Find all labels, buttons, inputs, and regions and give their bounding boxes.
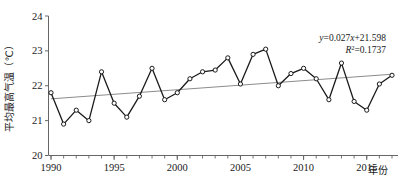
data-point-marker: [200, 70, 204, 74]
data-point-marker: [87, 119, 91, 123]
data-point-marker: [377, 82, 381, 86]
data-point-marker: [251, 52, 255, 56]
data-point-marker: [301, 66, 305, 70]
x-tick-label: 1990: [41, 162, 62, 173]
x-tick-label: 1995: [104, 162, 125, 173]
x-tick-label: 2005: [230, 162, 251, 173]
data-point-marker: [112, 101, 116, 105]
r-squared-text: R2=0.1737: [344, 44, 386, 55]
data-point-marker: [163, 98, 167, 102]
y-tick-label: 23: [32, 45, 43, 56]
data-point-marker: [352, 99, 356, 103]
data-point-marker: [276, 84, 280, 88]
data-point-marker: [390, 73, 394, 77]
data-point-marker: [339, 61, 343, 65]
y-axis-tick-labels: 2021222324: [32, 11, 43, 162]
data-point-marker: [365, 108, 369, 112]
line-chart: 2021222324 199019952000200520102015 平均最高…: [0, 0, 407, 187]
data-point-marker: [49, 91, 53, 95]
y-tick-label: 22: [32, 80, 43, 91]
eq-coefficient: =0.027: [324, 33, 351, 43]
data-point-marker: [314, 77, 318, 81]
data-point-marker: [150, 66, 154, 70]
eq-intercept: +21.598: [355, 33, 387, 43]
x-axis-tick-labels: 199019952000200520102015: [41, 162, 378, 173]
trendline: [51, 74, 392, 99]
data-point-marker: [74, 108, 78, 112]
data-point-marker: [137, 94, 141, 98]
r-value: =0.1737: [355, 45, 387, 55]
data-point-marker: [289, 71, 293, 75]
x-axis-major-ticks: [51, 156, 367, 161]
y-axis-title: 平均最高气温（℃）: [3, 40, 15, 131]
x-tick-label: 2010: [293, 162, 314, 173]
data-point-marker: [213, 68, 217, 72]
data-point-marker: [238, 82, 242, 86]
data-point-marker: [99, 70, 103, 74]
y-axis-ticks: [45, 16, 49, 156]
data-point-marker: [226, 56, 230, 60]
y-tick-label: 24: [32, 11, 43, 22]
y-tick-label: 20: [32, 150, 43, 161]
chart-container: 2021222324 199019952000200520102015 平均最高…: [0, 0, 407, 187]
data-point-marker: [62, 122, 66, 126]
data-point-marker: [188, 77, 192, 81]
x-tick-label: 2000: [167, 162, 188, 173]
y-tick-label: 21: [32, 115, 43, 126]
regression-equation-text: y=0.027x+21.598: [318, 33, 386, 43]
regression-annotation: y=0.027x+21.598 R2=0.1737: [318, 33, 386, 55]
data-point-marker: [327, 98, 331, 102]
data-point-marker: [175, 91, 179, 95]
data-point-marker: [125, 115, 129, 119]
data-point-marker: [264, 47, 268, 51]
x-axis-title: 年份: [368, 164, 388, 176]
